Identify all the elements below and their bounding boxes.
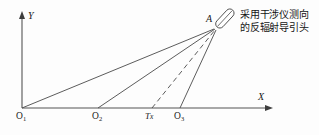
y-axis-arrowhead bbox=[19, 11, 25, 19]
point-label-tx: Tx bbox=[145, 112, 153, 121]
point-label-o1-main: O bbox=[16, 111, 23, 121]
x-axis-arrowhead bbox=[265, 105, 273, 111]
point-label-o2: O2 bbox=[92, 112, 102, 122]
seeker-head-icon bbox=[214, 7, 236, 30]
point-label-o3-sub: 3 bbox=[181, 115, 184, 122]
target-point-label-a: A bbox=[206, 14, 212, 24]
point-label-o3-main: O bbox=[174, 111, 181, 121]
annotation-text: 采用干涉仪测向 的反辐射导引头 bbox=[240, 9, 318, 35]
ray-o2-to-a bbox=[98, 29, 215, 108]
y-axis bbox=[19, 11, 25, 108]
x-axis-label: X bbox=[258, 92, 264, 102]
point-label-o1-sub: 1 bbox=[23, 115, 26, 122]
point-label-o1: O1 bbox=[16, 112, 26, 122]
geometry-diagram: Y X A O1 O2 Tx O3 采用干涉仪测向 的反辐射导引头 bbox=[0, 0, 319, 135]
annotation-line-1: 采用干涉仪测向 bbox=[240, 9, 318, 22]
annotation-line-2: 的反辐射导引头 bbox=[240, 22, 318, 35]
ray-o3-to-a bbox=[180, 30, 216, 108]
point-label-tx-sub: x bbox=[150, 112, 153, 121]
point-label-o2-main: O bbox=[92, 111, 99, 121]
y-axis-label: Y bbox=[28, 11, 34, 21]
point-label-o3: O3 bbox=[174, 112, 184, 122]
point-label-o2-sub: 2 bbox=[99, 115, 102, 122]
